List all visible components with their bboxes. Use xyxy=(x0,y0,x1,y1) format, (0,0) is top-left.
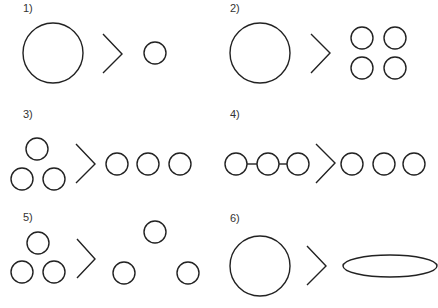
small-circle xyxy=(287,153,309,175)
greater-than-symbol xyxy=(316,144,335,183)
small-circle xyxy=(43,168,65,190)
small-circle xyxy=(11,168,33,190)
greater-than-symbol xyxy=(311,34,330,73)
small-circle xyxy=(351,27,373,49)
greater-than-symbol xyxy=(103,34,122,73)
panel-6 xyxy=(230,236,437,296)
panel-2 xyxy=(230,23,406,83)
small-circle xyxy=(169,153,191,175)
small-circle xyxy=(137,153,159,175)
greater-than-symbol xyxy=(76,144,95,183)
small-circle xyxy=(144,42,166,64)
flat-ellipse xyxy=(343,255,437,277)
large-circle xyxy=(230,236,290,296)
small-circle xyxy=(373,153,395,175)
small-circle xyxy=(113,262,135,284)
small-circle xyxy=(225,153,247,175)
small-circle xyxy=(341,153,363,175)
small-circle xyxy=(11,261,33,283)
panel-4 xyxy=(225,144,425,183)
small-circle xyxy=(27,232,49,254)
panel-1 xyxy=(23,23,166,83)
large-circle xyxy=(230,23,290,83)
small-circle xyxy=(384,57,406,79)
small-circle xyxy=(257,153,279,175)
small-circle xyxy=(384,27,406,49)
greater-than-symbol xyxy=(77,239,95,278)
small-circle xyxy=(43,261,65,283)
panel-3 xyxy=(11,138,191,190)
small-circle xyxy=(106,153,128,175)
small-circle xyxy=(26,138,48,160)
small-circle xyxy=(351,57,373,79)
small-circle xyxy=(403,153,425,175)
panel-5 xyxy=(11,221,199,284)
greater-than-symbol xyxy=(307,246,326,285)
large-circle xyxy=(23,23,83,83)
small-circle xyxy=(144,221,166,243)
diagram-canvas xyxy=(0,0,438,308)
small-circle xyxy=(177,262,199,284)
